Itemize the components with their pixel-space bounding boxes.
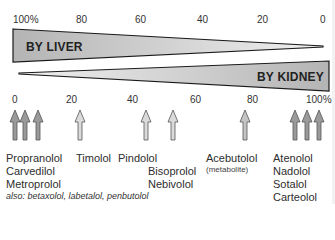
arrow-up-icon (314, 110, 324, 140)
arrow-up-icon (290, 110, 300, 140)
arrow-up-icon (20, 110, 30, 140)
bottom-tick-20: 20 (66, 95, 77, 105)
arrows (10, 110, 324, 140)
liver-label: BY LIVER (26, 40, 83, 54)
arrow-up-icon (33, 110, 43, 140)
arrow-up-icon (141, 110, 151, 140)
drug-group-4: Bisoprolol Nebivolol (148, 165, 196, 191)
arrow-up-icon (302, 110, 312, 140)
drug-label: Propranolol (6, 152, 62, 165)
drug-label: Pindolol (118, 152, 157, 165)
bottom-tick-40: 40 (127, 95, 138, 105)
bottom-tick-100: 100% (306, 95, 332, 105)
drug-label: Timolol (76, 152, 111, 165)
drug-label: Nebivolol (148, 178, 196, 191)
drug-label: Sotalol (273, 178, 317, 191)
drug-label: Nadolol (273, 165, 317, 178)
footnote: also: betaxolol, labetalol, penbutolol (6, 191, 149, 201)
metabolite-note: (metabolite) (206, 165, 257, 174)
drug-group-3: Pindolol (118, 152, 157, 165)
arrow-up-icon (75, 110, 85, 140)
arrow-up-icon (10, 110, 20, 140)
drug-group-6: Atenolol Nadolol Sotalol Carteolol (273, 152, 317, 204)
drug-label: Carteolol (273, 191, 317, 204)
bottom-tick-60: 60 (190, 95, 201, 105)
drug-label: Atenolol (273, 152, 317, 165)
drug-label: Acebutolol (206, 152, 257, 165)
drug-group-5: Acebutolol (metabolite) (206, 152, 257, 174)
drug-label: Bisoprolol (148, 165, 196, 178)
bottom-tick-80: 80 (247, 95, 258, 105)
drug-label: Metroprolol (6, 178, 62, 191)
drug-group-2: Timolol (76, 152, 111, 165)
drug-label: Carvedilol (6, 165, 62, 178)
arrow-up-icon (240, 110, 250, 140)
arrow-up-icon (168, 110, 178, 140)
drug-group-1: Propranolol Carvedilol Metroprolol (6, 152, 62, 191)
kidney-label: BY KIDNEY (257, 70, 324, 84)
bottom-tick-0: 0 (12, 95, 18, 105)
